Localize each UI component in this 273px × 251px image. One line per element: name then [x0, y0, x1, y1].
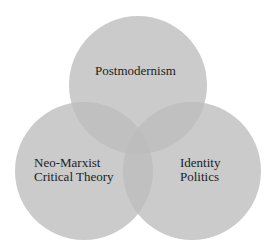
- venn-diagram: [0, 0, 273, 251]
- label-identity-politics-line-2: Politics: [180, 170, 220, 184]
- label-neo-marxist-critical-theory: Neo-Marxist Critical Theory: [34, 156, 114, 184]
- label-postmodernism-line-1: Postmodernism: [95, 64, 176, 78]
- label-identity-politics: Identity Politics: [180, 156, 220, 184]
- label-neo-marxist-line-2: Critical Theory: [34, 170, 114, 184]
- label-identity-politics-line-1: Identity: [180, 156, 220, 170]
- label-postmodernism: Postmodernism: [95, 64, 176, 78]
- label-neo-marxist-line-1: Neo-Marxist: [34, 156, 114, 170]
